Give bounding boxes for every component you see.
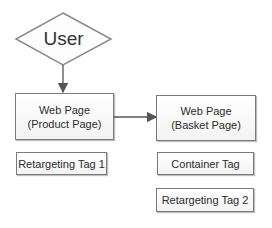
container-tag: Container Tag	[157, 152, 254, 175]
basket-page-node: Web Page (Basket Page)	[156, 95, 256, 141]
container-tag-label: Container Tag	[171, 157, 239, 171]
product-page-node: Web Page (Product Page)	[15, 93, 114, 140]
retargeting-tag-2-label: Retargeting Tag 2	[162, 193, 249, 207]
retargeting-tag-2: Retargeting Tag 2	[156, 188, 254, 212]
product-page-title: Web Page	[39, 103, 90, 117]
flow-diagram: User Web Page (Product Page) Web Page (B…	[0, 0, 272, 228]
retargeting-tag-1-label: Retargeting Tag 1	[18, 157, 105, 171]
retargeting-tag-1: Retargeting Tag 1	[16, 152, 107, 175]
product-page-subtitle: (Product Page)	[28, 117, 102, 131]
basket-page-subtitle: (Basket Page)	[171, 118, 241, 132]
user-node: User	[16, 13, 111, 65]
basket-page-title: Web Page	[180, 104, 231, 118]
